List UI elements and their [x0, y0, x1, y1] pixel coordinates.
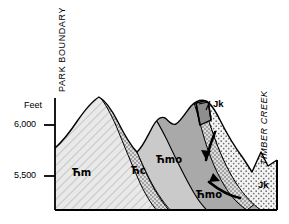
unit-label-cmo-limb: Ћmo [196, 190, 289, 200]
unit-label-cmo-crest: Ћmo [156, 155, 289, 165]
timber-creek-label: TIMBER CREEK [260, 90, 269, 165]
unit-label-jk-valley: Jk [258, 180, 269, 190]
unit-label-cc: Ћc [131, 166, 289, 176]
geologic-cross-section-figure: Feet 6,000 5,500 PARK BOUNDARY TIMBER CR… [0, 0, 289, 224]
axis-tick-label-5500: 5,500 [14, 171, 36, 180]
unit-label-jk-upper: Jk [213, 99, 224, 109]
axis-unit-label: Feet [24, 101, 42, 110]
axis-tick-label-6000: 6,000 [14, 120, 36, 129]
park-boundary-label: PARK BOUNDARY [58, 7, 67, 92]
